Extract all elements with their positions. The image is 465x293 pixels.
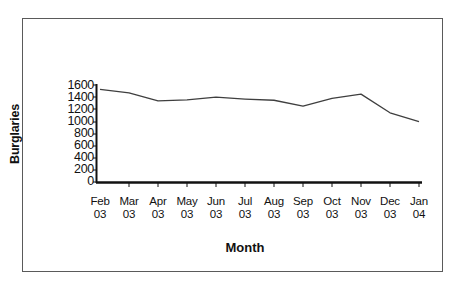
x-tick-year: 04 (399, 208, 439, 221)
x-tick-month: Jan (399, 195, 439, 208)
x-axis-title: Month (160, 240, 330, 255)
x-tick-label: Jan 04 (399, 195, 439, 221)
chart-figure: Burglaries 1600 1400 1200 1000 800 600 4… (0, 0, 465, 293)
